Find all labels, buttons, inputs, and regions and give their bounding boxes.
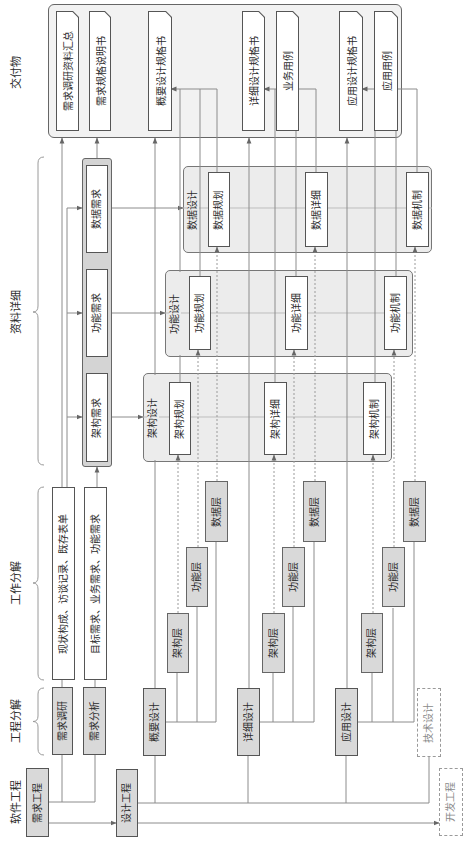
doc-label: 概要设计规格书 [153,36,168,106]
doc-requirements-survey-summary: 需求调研资料汇总 [56,11,79,131]
label-engineering-breakdown: 工程分解 [9,690,23,752]
doc-label: 需求调研资料汇总 [60,31,75,111]
data-layer-box: 数据层 [403,481,426,542]
development-engineering-box: 开发工程 [439,768,463,836]
architecture-layer-box: 架构层 [361,613,383,673]
detailed-design-box: 详细设计 [237,688,260,756]
design-engineering-box: 设计工程 [116,769,138,837]
link-phase-to-work [62,680,95,687]
data-mechanism-box: 数据机制 [406,172,429,247]
function-mechanism-box: 功能机制 [384,276,407,350]
brace-data-detail [33,157,44,465]
analysis-outputs-box: 目标需求、业务需求、功能需求 [84,487,107,680]
architecture-layer-box: 架构层 [262,613,285,673]
brace-engineering-breakdown [33,688,44,755]
group-title: 架构设计 [147,375,159,460]
tree-req-eng [49,755,95,802]
label-data-detail: 资料详细 [9,281,23,343]
architecture-mechanism-box: 架构机制 [363,382,386,455]
doc-overview-design-spec: 概要设计规格书 [148,11,172,131]
doc-label: 详细设计规格书 [246,36,261,106]
data-planning-box: 数据规划 [208,172,230,247]
data-detail-box: 数据详细 [305,172,328,247]
function-layer-box: 功能层 [186,547,208,607]
function-planning-box: 功能规划 [189,276,211,350]
doc-business-use-cases: 业务用例 [276,11,299,131]
function-detail-box: 功能详细 [285,276,308,350]
tree-design-eng [138,756,429,803]
doc-label: 应用用例 [379,51,394,91]
doc-label: 业务用例 [280,51,295,91]
architecture-detail-box: 架构详细 [264,382,287,455]
function-layer-box: 功能层 [382,547,405,607]
brace-work-breakdown [33,487,44,680]
technical-design-box: 技术设计 [417,688,441,757]
group-title: 功能设计 [169,272,181,355]
survey-outputs-box: 现状构成、访谈记录、既存表单 [52,487,75,680]
doc-application-use-cases: 应用用例 [374,11,398,131]
label-software-engineering: 软件工程 [9,772,23,832]
group-title: 数据设计 [187,168,199,251]
architecture-requirements-box: 架构需求 [86,373,108,462]
requirements-survey-box: 需求调研 [52,687,73,755]
label-work-breakdown: 工作分解 [9,552,23,614]
architecture-layer-box: 架构层 [167,613,189,673]
requirements-engineering-box: 需求工程 [26,768,49,837]
requirements-analysis-box: 需求分析 [83,687,106,755]
overview-design-box: 概要设计 [143,688,166,756]
function-layer-box: 功能层 [282,547,305,607]
architecture-planning-box: 架构规划 [169,382,191,455]
doc-detailed-design-spec: 详细设计规格书 [242,11,265,131]
doc-label: 应用设计规格书 [344,36,359,106]
engineering-diagram: 软件工程 工程分解 工作分解 资料详细 交付物 架构设计 架构规划 架构详细 架… [0,0,473,848]
data-layer-box: 数据层 [303,481,326,542]
doc-label: 需求规格说明书 [93,36,108,106]
application-design-box: 应用设计 [335,688,358,756]
data-requirements-box: 数据需求 [86,165,108,253]
doc-requirements-specification: 需求规格说明书 [89,11,111,131]
label-deliverables: 交付物 [9,42,23,102]
doc-application-design-spec: 应用设计规格书 [339,11,363,131]
function-requirements-box: 功能需求 [86,269,108,357]
data-layer-box: 数据层 [205,481,228,542]
